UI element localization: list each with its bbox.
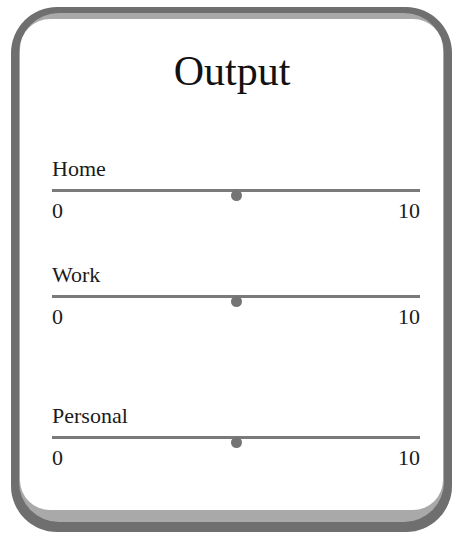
slider-min-personal: 0 xyxy=(52,447,63,469)
slider-min-home: 0 xyxy=(52,200,63,222)
slider-thumb-personal[interactable] xyxy=(231,437,242,448)
slider-work: Work 0 10 xyxy=(52,264,420,334)
slider-label-home: Home xyxy=(52,158,106,180)
slider-min-work: 0 xyxy=(52,306,63,328)
slider-home: Home 0 10 xyxy=(52,158,420,228)
slider-label-personal: Personal xyxy=(52,405,128,427)
panel-title: Output xyxy=(0,50,464,92)
slider-label-work: Work xyxy=(52,264,100,286)
slider-personal: Personal 0 10 xyxy=(52,405,420,475)
slider-thumb-home[interactable] xyxy=(231,190,242,201)
slider-thumb-work[interactable] xyxy=(231,296,242,307)
slider-max-work: 10 xyxy=(398,306,420,328)
slider-max-personal: 10 xyxy=(398,447,420,469)
slider-max-home: 10 xyxy=(398,200,420,222)
